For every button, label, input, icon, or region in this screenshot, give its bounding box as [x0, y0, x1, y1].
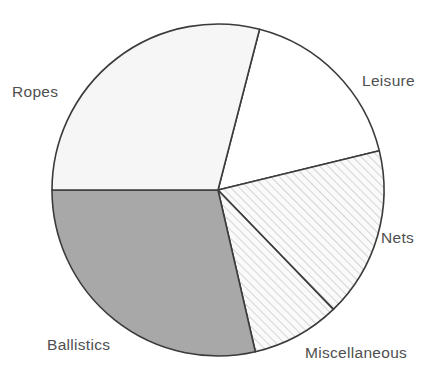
pie-slices: [52, 24, 384, 356]
pie-label-ropes: Ropes: [12, 84, 58, 100]
pie-chart-svg: [0, 0, 434, 373]
pie-label-miscellaneous: Miscellaneous: [305, 345, 407, 361]
pie-label-nets: Nets: [381, 230, 414, 246]
pie-label-leisure: Leisure: [362, 73, 415, 89]
pie-chart: Ropes Leisure Nets Miscellaneous Ballist…: [0, 0, 434, 373]
pie-label-ballistics: Ballistics: [47, 337, 110, 353]
